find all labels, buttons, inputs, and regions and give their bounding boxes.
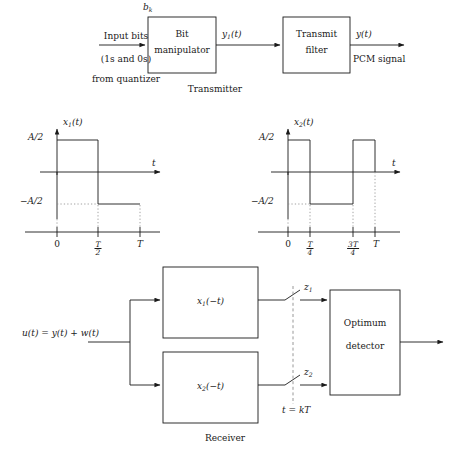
- optimum-detector-label: Optimum detector: [330, 312, 400, 359]
- w2-t-axis-label: t: [392, 159, 396, 168]
- x2-signal-label: x2(t): [294, 118, 314, 128]
- z2-label: z2: [304, 368, 313, 378]
- w1-t-axis-label: t: [152, 159, 156, 168]
- input-bits-sublabel: (1s and 0s): [101, 55, 151, 64]
- receiver-caption: Receiver: [205, 434, 245, 443]
- optimum-detector-line2: detector: [330, 335, 400, 358]
- y1-signal-label: y1(t): [222, 30, 242, 40]
- pcm-system-figure: Input bits (1s and 0s) from quantizer bk…: [0, 0, 451, 462]
- bit-manipulator-label: Bit manipulator: [148, 27, 216, 59]
- bk-symbol: bk: [143, 3, 152, 13]
- w2-tick-label-0: 0: [285, 240, 291, 249]
- w2-tick-label-T: T: [373, 240, 379, 249]
- optimum-detector-line1: Optimum: [330, 312, 400, 335]
- w1-level-negative-label: −A/2: [20, 197, 43, 206]
- w2-tick-label-three-quarter-T: 3T4: [347, 238, 359, 257]
- y-output-label: y(t): [356, 30, 372, 39]
- bit-manipulator-line2: manipulator: [148, 43, 216, 59]
- matched-filter-1-expr: x1(−t): [197, 296, 224, 306]
- x1-signal-label: x1(t): [63, 118, 83, 128]
- z1-label: z1: [304, 283, 313, 293]
- switch-blade-1: [285, 290, 300, 300]
- pcm-signal-label: PCM signal: [353, 55, 405, 64]
- switch-blade-2: [285, 375, 300, 385]
- w1-tick-label-half-T: T2: [94, 238, 101, 257]
- transmit-filter-line2: filter: [283, 43, 350, 59]
- from-quantizer-label: from quantizer: [92, 75, 160, 84]
- matched-filter-2-label: x2(−t): [163, 379, 258, 395]
- matched-filter-2-expr: x2(−t): [197, 381, 224, 391]
- transmitter-caption: Transmitter: [188, 85, 242, 94]
- receiver-input-expression: u(t) = y(t) + w(t): [22, 329, 99, 338]
- sampling-instant-label: t = kT: [282, 406, 310, 415]
- input-bits-label: Input bits: [104, 32, 148, 41]
- w1-level-positive-label: A/2: [28, 133, 43, 142]
- matched-filter-1-label: x1(−t): [163, 294, 258, 310]
- w1-tick-label-T: T: [137, 240, 143, 249]
- transmit-filter-label: Transmit filter: [283, 27, 350, 59]
- transmit-filter-line1: Transmit: [283, 27, 350, 43]
- w1-tick-label-0: 0: [54, 240, 60, 249]
- w2-level-negative-label: −A/2: [251, 197, 274, 206]
- w2-level-positive-label: A/2: [259, 133, 274, 142]
- w2-tick-label-quarter-T: T4: [306, 238, 313, 257]
- bit-manipulator-line1: Bit: [148, 27, 216, 43]
